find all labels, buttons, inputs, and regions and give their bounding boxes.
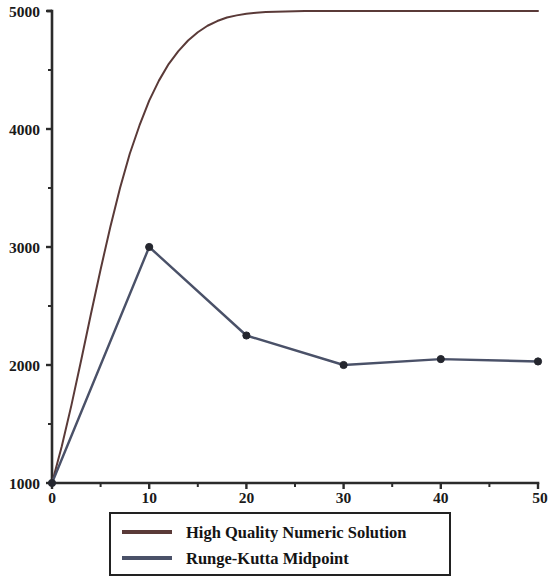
data-point-marker: [534, 358, 541, 365]
x-tick-label-10: 10: [141, 489, 157, 506]
x-tick-label-50: 50: [532, 489, 548, 506]
legend-label: High Quality Numeric Solution: [186, 523, 406, 542]
data-point-marker: [340, 361, 347, 368]
data-point-marker: [243, 332, 250, 339]
y-tick-label-1000: 1000: [9, 475, 40, 492]
x-tick-label-30: 30: [336, 489, 352, 506]
data-point-marker: [146, 243, 153, 250]
data-point-marker: [437, 356, 444, 363]
x-tick-label-40: 40: [433, 489, 449, 506]
chart-figure: 10002000300040005000 01020304050 High Qu…: [0, 0, 548, 577]
y-tick-label-4000: 4000: [9, 121, 40, 138]
data-point-marker: [48, 479, 55, 486]
y-tick-label-5000: 5000: [9, 3, 40, 20]
chart-background: [0, 0, 548, 577]
y-tick-label-3000: 3000: [9, 239, 40, 256]
legend-label: Runge-Kutta Midpoint: [186, 549, 349, 568]
line-chart: 10002000300040005000 01020304050 High Qu…: [0, 0, 548, 577]
x-tick-label-0: 0: [48, 489, 56, 506]
x-tick-label-20: 20: [239, 489, 255, 506]
chart-legend: High Quality Numeric SolutionRunge-Kutta…: [110, 513, 450, 575]
y-tick-label-2000: 2000: [9, 357, 40, 374]
